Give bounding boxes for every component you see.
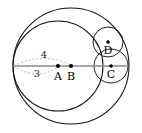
tangent-circles-figure: 4 3 A B C D — [0, 0, 142, 133]
length-label-four: 4 — [41, 49, 47, 60]
point-label-d: D — [104, 44, 113, 57]
point-label-a: A — [53, 70, 63, 83]
point-label-c: C — [107, 68, 115, 81]
length-label-three: 3 — [34, 68, 40, 79]
point-dot-b — [69, 64, 73, 68]
point-dot-a — [56, 64, 60, 68]
figure-canvas: 4 3 A B C D — [0, 0, 142, 133]
point-label-b: B — [67, 70, 75, 83]
